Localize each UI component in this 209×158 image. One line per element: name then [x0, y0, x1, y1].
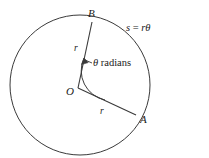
point-label-b: B — [88, 8, 95, 19]
point-label-o: O — [66, 86, 74, 97]
radian-measure-diagram: B O A r r θ radians s = rθ — [0, 0, 209, 158]
diagram-canvas — [0, 0, 209, 158]
circle-outline — [10, 15, 150, 155]
radius-label-ob: r — [74, 44, 78, 54]
radius-line-ob — [78, 22, 92, 88]
arc-length-rhs: rθ — [141, 22, 150, 33]
arc-length-formula: s = rθ — [126, 23, 151, 34]
angle-measure-label: θ radians — [93, 58, 131, 69]
angle-unit-text: radians — [98, 57, 131, 68]
radius-line-oa — [78, 88, 136, 115]
point-label-a: A — [140, 114, 147, 125]
radius-label-oa: r — [100, 107, 104, 117]
equals-sign: = — [130, 22, 141, 33]
